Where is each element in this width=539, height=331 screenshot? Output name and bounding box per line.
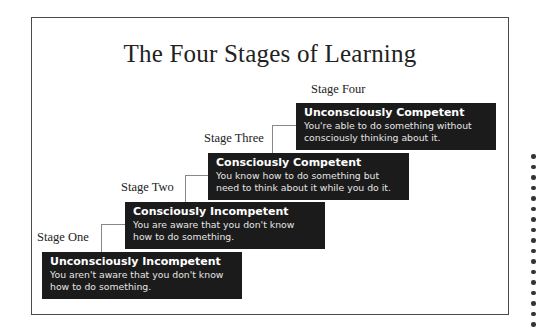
stage-three-heading: Consciously Competent	[216, 156, 401, 170]
stage-two-desc-line1: You are aware that you don't know	[133, 219, 317, 231]
connector-line	[272, 125, 273, 153]
stage-one-desc-line1: You aren't aware that you don't know	[50, 269, 234, 281]
dot	[531, 228, 536, 233]
dot	[531, 312, 536, 317]
stage-three-desc-line2: need to think about it while you do it.	[216, 182, 401, 194]
stage-four-label: Stage Four	[311, 82, 366, 97]
dot	[531, 217, 536, 222]
dot	[531, 270, 536, 275]
stage-two-heading: Consciously Incompetent	[133, 205, 317, 219]
stage-four-desc-line2: consciously thinking about it.	[304, 132, 488, 144]
dot	[531, 291, 536, 296]
stage-one-label: Stage One	[37, 230, 89, 245]
stage-three-label: Stage Three	[204, 131, 264, 146]
stage-two-label: Stage Two	[121, 180, 174, 195]
stage-one-heading: Unconsciously Incompetent	[50, 255, 234, 269]
dot	[531, 280, 536, 285]
dot	[531, 175, 536, 180]
stage-four-heading: Unconsciously Competent	[304, 106, 488, 120]
dot	[531, 238, 536, 243]
connector-line	[185, 175, 208, 176]
dot	[531, 186, 536, 191]
stage-four-desc-line1: You're able to do something without	[304, 120, 488, 132]
dotted-edge-decoration	[531, 154, 536, 331]
connector-line	[185, 175, 186, 203]
dot	[531, 154, 536, 159]
stage-four-box: Unconsciously Competent You're able to d…	[296, 103, 496, 150]
diagram-title: The Four Stages of Learning	[31, 40, 509, 68]
stage-one-desc-line2: how to do something.	[50, 281, 234, 293]
stage-three-box: Consciously Competent You know how to do…	[208, 153, 409, 200]
dot	[531, 259, 536, 264]
stage-two-desc-line2: how to do something.	[133, 231, 317, 243]
dot	[531, 165, 536, 170]
dot	[531, 301, 536, 306]
stage-three-desc-line1: You know how to do something but	[216, 170, 401, 182]
connector-line	[101, 224, 125, 225]
dot	[531, 207, 536, 212]
dot	[531, 249, 536, 254]
dot	[531, 322, 536, 327]
connector-line	[101, 224, 102, 252]
connector-line	[272, 125, 296, 126]
stage-one-box: Unconsciously Incompetent You aren't awa…	[42, 252, 242, 299]
stage-two-box: Consciously Incompetent You are aware th…	[125, 202, 325, 249]
dot	[531, 196, 536, 201]
